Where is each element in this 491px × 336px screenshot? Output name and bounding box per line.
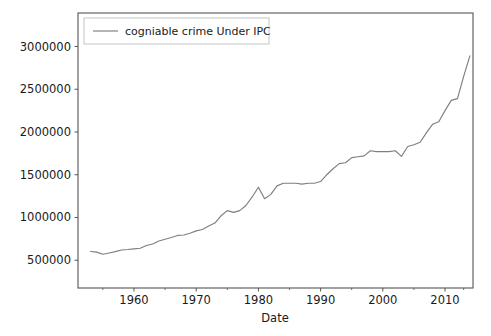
x-tick-label: 1970 (182, 293, 211, 307)
x-tick-label: 1980 (244, 293, 273, 307)
data-series-group (90, 56, 469, 254)
x-axis-title: Date (261, 311, 289, 325)
x-tick-label: 2000 (368, 293, 397, 307)
x-axis-tick-labels: 196019701980199020002010 (119, 293, 459, 307)
legend-label-0: cogniable crime Under IPC (125, 25, 271, 38)
y-tick-label: 1500000 (20, 168, 71, 182)
axes-frame (78, 13, 473, 288)
line-chart: 196019701980199020002010 500000100000015… (0, 0, 491, 336)
y-tick-label: 3000000 (20, 40, 71, 54)
chart-figure: 196019701980199020002010 500000100000015… (0, 0, 491, 336)
y-axis-tick-labels: 5000001000000150000020000002500000300000… (20, 40, 71, 268)
series-line-0 (90, 56, 469, 254)
y-tick-label: 2500000 (20, 82, 71, 96)
y-tick-label: 500000 (27, 253, 71, 267)
x-tick-label: 2010 (430, 293, 459, 307)
x-tick-label: 1990 (306, 293, 335, 307)
y-tick-label: 1000000 (20, 210, 71, 224)
y-tick-label: 2000000 (20, 125, 71, 139)
chart-legend: cogniable crime Under IPC (84, 18, 271, 44)
x-tick-label: 1960 (119, 293, 148, 307)
axes-spines (78, 13, 473, 288)
